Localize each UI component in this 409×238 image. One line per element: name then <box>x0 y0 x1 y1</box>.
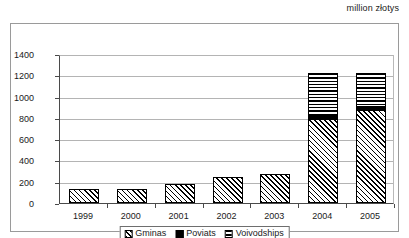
bar-2002[interactable] <box>213 54 243 203</box>
legend-entry-poviats[interactable]: Poviats <box>175 229 216 238</box>
chart-legend: GminasPoviatsVoivodships <box>119 226 290 238</box>
bar-segment-gminas-2004[interactable] <box>308 119 338 203</box>
bar-segment-voivodships-2005[interactable] <box>356 73 386 107</box>
x-axis-tick-mark <box>203 204 204 208</box>
x-axis-tick-mark <box>298 204 299 208</box>
bar-segment-gminas-1999[interactable] <box>69 189 99 203</box>
x-axis-tick-label-1999: 1999 <box>59 211 107 221</box>
bar-2003[interactable] <box>260 54 290 203</box>
y-axis-tick-mark <box>55 204 59 205</box>
legend-label-voivodships: Voivodships <box>236 229 284 238</box>
legend-swatch-voivodships <box>225 230 233 238</box>
x-axis-tick-mark <box>250 204 251 208</box>
y-axis-tick-label: 0 <box>29 200 34 209</box>
bar-segment-voivodships-2004[interactable] <box>308 73 338 115</box>
x-axis-tick-mark <box>155 204 156 208</box>
legend-entry-gminas[interactable]: Gminas <box>124 229 166 238</box>
x-axis-tick-label-2003: 2003 <box>250 211 298 221</box>
bar-2005[interactable] <box>356 54 386 203</box>
x-axis-tick-label-2000: 2000 <box>107 211 155 221</box>
plot-area <box>59 55 394 204</box>
bar-2000[interactable] <box>117 54 147 203</box>
bar-segment-gminas-2005[interactable] <box>356 110 386 203</box>
y-axis-tick-label: 600 <box>19 136 34 145</box>
bar-2004[interactable] <box>308 54 338 203</box>
x-axis-tick-label-2004: 2004 <box>298 211 346 221</box>
x-axis-tick-label-2002: 2002 <box>203 211 251 221</box>
legend-swatch-gminas <box>124 230 132 238</box>
bar-segment-gminas-2002[interactable] <box>213 177 243 203</box>
y-axis-tick-label: 400 <box>19 157 34 166</box>
y-axis-tick-label: 800 <box>19 115 34 124</box>
bar-1999[interactable] <box>69 54 99 203</box>
bar-segment-poviats-2005[interactable] <box>356 107 386 110</box>
y-axis-tick-label: 1000 <box>14 94 34 103</box>
x-axis-tick-mark <box>107 204 108 208</box>
x-axis-tick-mark <box>346 204 347 208</box>
y-axis-tick-label: 200 <box>19 179 34 188</box>
units-caption: million złotys <box>347 3 399 13</box>
bar-segment-poviats-2004[interactable] <box>308 115 338 119</box>
legend-entry-voivodships[interactable]: Voivodships <box>225 229 284 238</box>
x-axis-tick-label-2001: 2001 <box>155 211 203 221</box>
legend-label-poviats: Poviats <box>186 229 216 238</box>
x-axis-tick-mark <box>394 204 395 208</box>
legend-label-gminas: Gminas <box>135 229 166 238</box>
legend-swatch-poviats <box>175 230 183 238</box>
x-axis-tick-label-2005: 2005 <box>346 211 394 221</box>
bar-segment-gminas-2003[interactable] <box>260 174 290 203</box>
bar-segment-gminas-2000[interactable] <box>117 189 147 203</box>
bar-2001[interactable] <box>165 54 195 203</box>
y-axis-tick-label: 1400 <box>14 51 34 60</box>
chart-frame: 0200400600800100012001400 19992000200120… <box>10 23 399 232</box>
y-axis-tick-label: 1200 <box>14 72 34 81</box>
bar-segment-gminas-2001[interactable] <box>165 184 195 203</box>
